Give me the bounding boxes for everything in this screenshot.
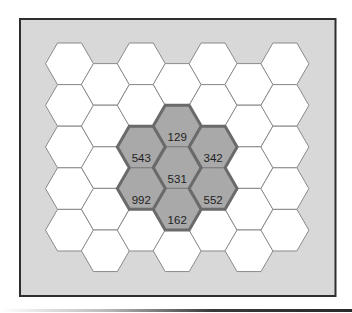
hex-label-lower-left: 992 xyxy=(132,194,151,206)
hex-label-center: 531 xyxy=(168,173,187,185)
hex-label-upper-right: 342 xyxy=(204,152,223,164)
hex-label-bottom: 162 xyxy=(168,214,187,226)
hex-label-lower-right: 552 xyxy=(204,194,223,206)
bottom-rule xyxy=(0,309,352,312)
hex-grid-diagram: 129 543 342 531 992 552 162 xyxy=(0,0,352,313)
hex-label-top: 129 xyxy=(168,131,187,143)
hex-label-upper-left: 543 xyxy=(132,152,151,164)
